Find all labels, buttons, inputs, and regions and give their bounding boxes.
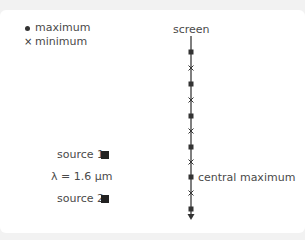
- maximum-dot-icon: [189, 207, 194, 212]
- source-2-label: source 2: [57, 193, 104, 205]
- wavelength-label: λ = 1.6 μm: [51, 171, 112, 183]
- maximum-dot-icon: [189, 82, 194, 87]
- source-1-label: source 1: [57, 149, 104, 161]
- maximum-dot-icon: [189, 175, 194, 180]
- source-2-square-icon: [101, 195, 109, 203]
- maximum-dot-icon: [189, 145, 194, 150]
- source-1-square-icon: [101, 151, 109, 159]
- central-maximum-label: central maximum: [198, 172, 295, 184]
- maximum-dot-icon: [189, 114, 194, 119]
- maximum-dot-icon: [189, 50, 194, 55]
- screen-line: [0, 0, 305, 240]
- arrow-head-icon: [188, 214, 195, 220]
